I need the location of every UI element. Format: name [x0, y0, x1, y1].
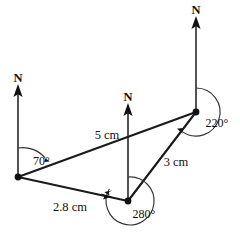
- segment-ac-label: 5 cm: [95, 128, 120, 142]
- angle-arrowhead-280: [104, 191, 112, 196]
- segment-bc-label: 3 cm: [164, 155, 189, 169]
- vertex-c-dot: [193, 109, 200, 116]
- vertex-a-dot: [15, 174, 22, 181]
- vertex-b-dot: [125, 198, 132, 205]
- north-markers-group: [13, 16, 200, 201]
- angle-label-220: 220°: [206, 116, 229, 130]
- segment-ab-line: [18, 177, 128, 201]
- north-marker-right: [191, 16, 200, 112]
- angle-label-280: 280°: [133, 207, 156, 221]
- segment-ab-label: 2.8 cm: [53, 200, 87, 214]
- north-marker-left: [13, 84, 22, 177]
- north-marker-middle: [123, 103, 132, 201]
- north-label-left: N: [13, 71, 22, 85]
- north-label-right: N: [191, 3, 200, 17]
- bearing-diagram-canvas: N N N 5 cm 2.8 cm 3 cm 70° 280° 220°: [0, 0, 240, 240]
- north-label-middle: N: [123, 90, 132, 104]
- angle-label-70: 70°: [33, 154, 50, 168]
- bearing-diagram-svg: N N N 5 cm 2.8 cm 3 cm 70° 280° 220°: [0, 0, 240, 240]
